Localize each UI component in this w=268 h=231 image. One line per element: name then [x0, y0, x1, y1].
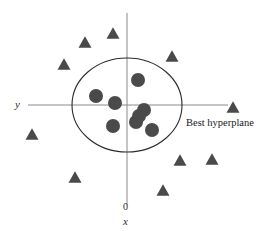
best-hyperplane-annotation-label: Best hyperplane: [186, 118, 254, 129]
data-point-triangle: [79, 36, 92, 47]
data-point-triangle: [107, 27, 120, 38]
figure-root: y 0 x Best hyperplane: [0, 0, 268, 231]
origin-label: 0: [123, 202, 128, 212]
data-point-circle: [145, 123, 159, 137]
y-axis-label: y: [15, 99, 20, 110]
x-axis-label: x: [123, 216, 128, 227]
data-point-triangle: [69, 171, 82, 182]
data-point-circle: [108, 96, 122, 110]
data-point-circle: [131, 73, 145, 87]
outside-class-markers-group: [26, 27, 240, 195]
data-point-triangle: [26, 128, 39, 139]
data-point-circle: [89, 89, 103, 103]
data-point-triangle: [174, 154, 187, 165]
data-point-circle: [132, 109, 146, 123]
scatter-plot-canvas: [0, 0, 268, 231]
data-point-triangle: [206, 153, 219, 164]
data-point-triangle: [157, 184, 170, 195]
axes-group: [28, 13, 228, 205]
data-point-triangle: [166, 50, 179, 61]
data-point-triangle: [58, 58, 71, 69]
data-point-circle: [106, 119, 120, 133]
data-point-triangle: [227, 101, 240, 112]
